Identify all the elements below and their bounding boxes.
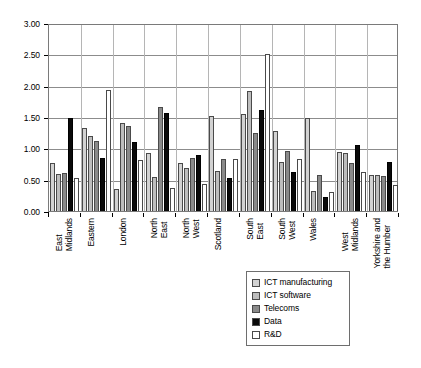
bar[interactable]	[311, 191, 316, 211]
bar[interactable]	[381, 176, 386, 211]
y-axis-tick-label: 3.00	[0, 20, 40, 28]
bar-group	[81, 25, 113, 211]
bar[interactable]	[82, 128, 87, 211]
bar[interactable]	[291, 172, 296, 211]
bar[interactable]	[184, 168, 189, 211]
bar[interactable]	[68, 118, 73, 211]
x-axis-category-label: London	[119, 218, 129, 246]
y-axis-tick-label: 2.50	[0, 51, 40, 59]
bar[interactable]	[279, 162, 284, 212]
bar[interactable]	[329, 192, 334, 211]
bar[interactable]	[106, 90, 111, 211]
x-axis-tick	[80, 213, 81, 217]
x-axis-tick	[175, 213, 176, 217]
bar[interactable]	[146, 153, 151, 211]
bar[interactable]	[62, 173, 67, 211]
bar[interactable]	[375, 175, 380, 211]
bar[interactable]	[227, 178, 232, 211]
legend-swatch-data	[252, 318, 260, 326]
bar[interactable]	[361, 172, 366, 211]
bar[interactable]	[190, 158, 195, 211]
y-axis-tick-label: 0.50	[0, 177, 40, 185]
legend-label-rd: R&D	[264, 330, 282, 339]
x-axis-category-label: South West	[278, 218, 297, 240]
legend-item-telecoms[interactable]: Telecoms	[252, 302, 344, 315]
legend-label-telecoms: Telecoms	[264, 304, 299, 313]
bar[interactable]	[247, 91, 252, 211]
bar[interactable]	[259, 110, 264, 211]
bar[interactable]	[164, 113, 169, 211]
y-axis-tick-label: 1.50	[0, 114, 40, 122]
bar-group	[240, 25, 272, 211]
bar[interactable]	[196, 155, 201, 211]
legend-swatch-ict-manufacturing	[252, 279, 260, 287]
bar[interactable]	[393, 185, 398, 211]
legend-label-ict-software: ICT software	[264, 291, 311, 300]
bar[interactable]	[215, 171, 220, 211]
x-axis-category-label: East Midlands	[55, 218, 74, 251]
bar[interactable]	[132, 142, 137, 211]
bar[interactable]	[100, 158, 105, 211]
legend-item-ict-manufacturing[interactable]: ICT manufacturing	[252, 276, 344, 289]
bar-chart: 3.002.502.001.501.000.500.00 East Midlan…	[0, 0, 421, 368]
legend-swatch-ict-software	[252, 292, 260, 300]
bar-group	[367, 25, 399, 211]
bar-group	[49, 25, 81, 211]
bar[interactable]	[241, 114, 246, 211]
chart-legend: ICT manufacturing ICT software Telecoms …	[246, 271, 350, 346]
bar[interactable]	[355, 145, 360, 211]
bar[interactable]	[285, 151, 290, 211]
bar[interactable]	[343, 153, 348, 211]
bar[interactable]	[126, 126, 131, 211]
bar[interactable]	[138, 160, 143, 211]
bar[interactable]	[349, 163, 354, 211]
legend-item-data[interactable]: Data	[252, 315, 344, 328]
bar[interactable]	[265, 54, 270, 211]
y-axis-tick-label: 2.00	[0, 83, 40, 91]
x-axis-category-label: West Midlands	[341, 218, 360, 251]
bar[interactable]	[387, 162, 392, 212]
bar[interactable]	[152, 177, 157, 211]
bar[interactable]	[170, 188, 175, 211]
bar[interactable]	[94, 141, 99, 211]
x-axis-category-label: South East	[246, 218, 265, 240]
x-axis-tick	[239, 213, 240, 217]
x-axis-tick	[303, 213, 304, 217]
bar[interactable]	[56, 174, 61, 211]
x-axis-tick	[207, 213, 208, 217]
y-axis-tick-label: 1.00	[0, 145, 40, 153]
legend-label-data: Data	[264, 317, 282, 326]
legend-item-rd[interactable]: R&D	[252, 328, 344, 341]
bar[interactable]	[178, 163, 183, 211]
bar-group	[113, 25, 145, 211]
bar-group	[272, 25, 304, 211]
bar[interactable]	[337, 152, 342, 211]
y-axis-tick-label: 0.00	[0, 208, 40, 216]
bar[interactable]	[369, 175, 374, 211]
x-axis-tick	[112, 213, 113, 217]
bar[interactable]	[305, 118, 310, 211]
x-axis-category-label: Scotland	[214, 218, 224, 250]
bar-group	[176, 25, 208, 211]
x-axis-category-label: Eastern	[87, 218, 97, 247]
bar[interactable]	[221, 159, 226, 211]
bar[interactable]	[50, 163, 55, 211]
bar[interactable]	[253, 133, 258, 211]
bar[interactable]	[202, 184, 207, 211]
bar[interactable]	[233, 159, 238, 211]
bar[interactable]	[273, 131, 278, 211]
bar[interactable]	[323, 197, 328, 211]
plot-area	[48, 24, 398, 212]
bar[interactable]	[158, 107, 163, 211]
bar[interactable]	[114, 189, 119, 211]
bar-group	[144, 25, 176, 211]
bar[interactable]	[74, 178, 79, 211]
bar[interactable]	[297, 159, 302, 211]
x-axis-tick	[366, 213, 367, 217]
bar[interactable]	[88, 136, 93, 211]
bar[interactable]	[120, 123, 125, 211]
legend-item-ict-software[interactable]: ICT software	[252, 289, 344, 302]
bar[interactable]	[317, 175, 322, 211]
bar[interactable]	[209, 116, 214, 211]
bar-group	[335, 25, 367, 211]
